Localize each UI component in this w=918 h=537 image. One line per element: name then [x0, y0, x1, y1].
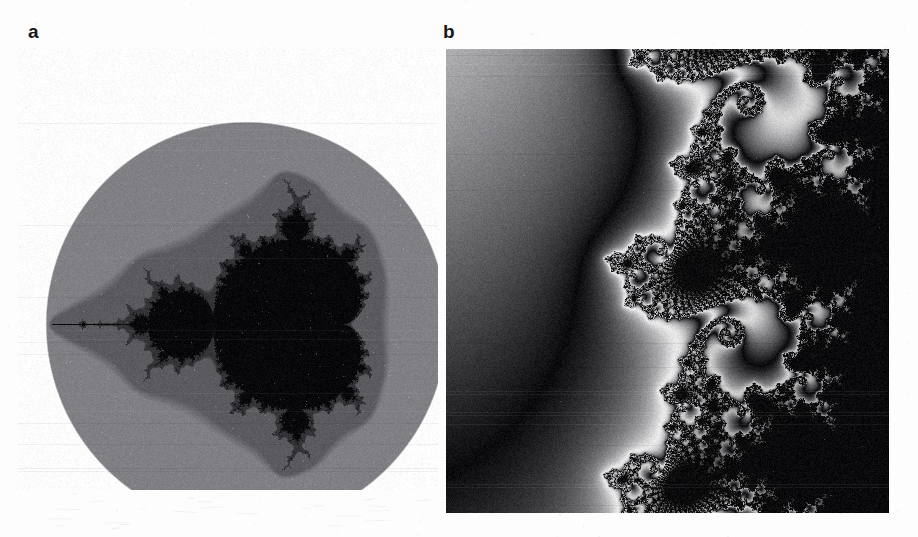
panel-label-b: b — [443, 22, 455, 41]
panel-a-canvas — [18, 48, 438, 490]
panel-b-canvas — [446, 49, 889, 513]
panel-a-mandelbrot-overview — [18, 48, 438, 490]
panel-label-a: a — [28, 22, 39, 41]
panel-b-mandelbrot-deep-zoom — [446, 49, 889, 513]
